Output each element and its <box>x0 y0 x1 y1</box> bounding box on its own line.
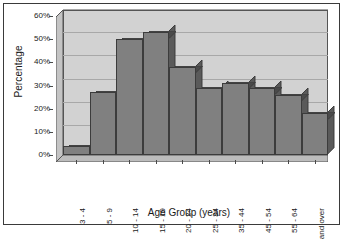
bar-top-face <box>169 60 203 67</box>
bar[interactable] <box>302 113 329 155</box>
bar-front-face <box>90 92 117 155</box>
bars-layer <box>56 10 328 162</box>
y-tick-mark <box>49 86 53 87</box>
x-tick-mark <box>262 160 263 164</box>
y-tick-mark <box>49 109 53 110</box>
bar-top-face <box>143 25 177 32</box>
y-tick-label: 0% <box>24 151 50 159</box>
y-tick-label: 20% <box>24 105 50 113</box>
bar-front-face <box>196 88 223 155</box>
y-tick-label: 60% <box>24 12 50 20</box>
x-tick-mark <box>156 160 157 164</box>
bar[interactable] <box>275 95 302 155</box>
y-tick-mark <box>49 155 53 156</box>
bar[interactable] <box>143 32 170 155</box>
bar[interactable] <box>116 39 143 155</box>
x-axis-title: Age Group (years) <box>44 207 334 218</box>
bar[interactable] <box>196 88 223 155</box>
x-tick-mark <box>129 160 130 164</box>
y-tick-label: 40% <box>24 58 50 66</box>
y-tick-mark <box>49 16 53 17</box>
bar-top-face <box>302 106 336 113</box>
plot-area <box>56 10 328 162</box>
bar-front-face <box>275 95 302 155</box>
x-tick-mark <box>103 160 104 164</box>
y-tick-mark <box>49 39 53 40</box>
bar[interactable] <box>249 88 276 155</box>
y-tick-mark <box>49 62 53 63</box>
y-tick-label: 30% <box>24 82 50 90</box>
x-tick-mark <box>76 160 77 164</box>
bar-top-face <box>275 88 309 95</box>
bar[interactable] <box>222 83 249 155</box>
y-tick-label: 50% <box>24 35 50 43</box>
bar-front-face <box>249 88 276 155</box>
x-tick-mark <box>315 160 316 164</box>
y-tick-label: 10% <box>24 128 50 136</box>
bar-front-face <box>116 39 143 155</box>
bar-front-face <box>143 32 170 155</box>
bar-top-face <box>249 81 283 88</box>
x-tick-mark <box>288 160 289 164</box>
y-axis-ticks: 0%10%20%30%40%50%60% <box>22 4 50 224</box>
x-tick-mark <box>235 160 236 164</box>
bar-front-face <box>302 113 329 155</box>
bar-front-face <box>222 83 249 155</box>
x-axis-ticks: 3 - 45 - 910 - 1415 - 1920 - 2425 - 3435… <box>56 164 328 210</box>
chart-frame: Percentage 0%10%20%30%40%50%60% 3 - 45 -… <box>3 3 340 225</box>
x-tick-mark <box>182 160 183 164</box>
bar-front-face <box>169 67 196 155</box>
bar[interactable] <box>169 67 196 155</box>
y-tick-mark <box>49 132 53 133</box>
x-tick-mark <box>209 160 210 164</box>
bar[interactable] <box>63 146 90 155</box>
bar[interactable] <box>90 92 117 155</box>
bar-front-face <box>63 146 90 155</box>
